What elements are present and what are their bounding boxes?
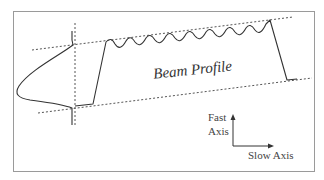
fast-axis-label-line1: Fast (208, 111, 226, 123)
fast-axis-arrowhead-icon (231, 114, 236, 120)
top-dashed-boundary (32, 17, 293, 50)
slow-axis-label: Slow Axis (248, 149, 294, 161)
fast-axis-label-line2: Axis (208, 125, 229, 137)
slow-axis-arrowhead-icon (268, 144, 274, 149)
fast-axis-profile-curve (17, 31, 73, 125)
bottom-dashed-boundary (38, 78, 312, 113)
beam-profile-diagram: Beam Profile Fast Axis Slow Axis (0, 0, 324, 180)
axis-indicator: Fast Axis Slow Axis (208, 111, 294, 161)
beam-profile-label: Beam Profile (152, 58, 233, 82)
